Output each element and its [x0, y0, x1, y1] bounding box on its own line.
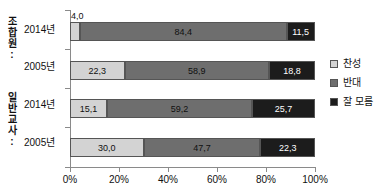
- bar-segment-value: 4,0: [71, 11, 84, 21]
- bar-segment[interactable]: 25,7: [252, 99, 315, 118]
- x-axis-tick: [168, 168, 169, 172]
- legend: 찬성반대잘 모름: [330, 58, 390, 115]
- legend-swatch-icon: [330, 79, 338, 87]
- bar-segment-value: 47,7: [193, 143, 211, 153]
- group-label-char: 사: [2, 125, 22, 136]
- bar-segment[interactable]: 47,7: [144, 138, 261, 157]
- plot-area: 4,084,411,522,358,918,815,159,225,730,04…: [70, 10, 315, 165]
- x-axis-line: [70, 167, 316, 168]
- bar-row: 4,084,411,5: [70, 22, 315, 41]
- legend-swatch-icon: [330, 60, 338, 68]
- group-label-char: 교: [2, 114, 22, 125]
- legend-label: 반대: [343, 77, 361, 88]
- bar-segment-value: 58,9: [188, 66, 206, 76]
- bar-segment-value: 11,5: [292, 27, 309, 37]
- bar-segment[interactable]: 58,9: [125, 61, 269, 80]
- bar-segment-value: 22,3: [89, 66, 107, 76]
- legend-unknown[interactable]: 잘 모름: [330, 96, 390, 107]
- bar-segment[interactable]: 22,3: [260, 138, 315, 157]
- bar-segment[interactable]: 84,4: [80, 22, 287, 41]
- x-axis-tick: [119, 168, 120, 172]
- legend-label: 찬성: [343, 58, 361, 69]
- bar-row: 15,159,225,7: [70, 99, 315, 118]
- bar-segment-value: 15,1: [80, 104, 98, 114]
- group-label-char: 합: [2, 27, 22, 38]
- group-label-teacher: 일반교사:: [2, 92, 22, 147]
- year-label: 2005년: [24, 137, 68, 149]
- bar-segment-value: 18,8: [283, 66, 301, 76]
- bar-segment-value: 25,7: [275, 104, 293, 114]
- group-label-union: 조합원:: [2, 16, 22, 60]
- bar-segment-value: 30,0: [98, 143, 116, 153]
- bar-segment-value: 22,3: [279, 143, 297, 153]
- group-label-char: 반: [2, 103, 22, 114]
- bar-segment[interactable]: 30,0: [70, 138, 144, 157]
- bar-segment[interactable]: 59,2: [107, 99, 252, 118]
- x-axis-tick-label: 0%: [52, 174, 88, 186]
- year-label: 2014년: [24, 99, 68, 111]
- x-axis-tick: [70, 168, 71, 172]
- group-label-char: 조: [2, 16, 22, 27]
- bar-row: 22,358,918,8: [70, 61, 315, 80]
- x-axis-tick: [217, 168, 218, 172]
- bar-segment[interactable]: 4,0: [70, 22, 80, 41]
- x-axis-tick-label: 20%: [101, 174, 137, 186]
- bar-row: 30,047,722,3: [70, 138, 315, 157]
- x-axis-tick-label: 40%: [150, 174, 186, 186]
- bar-segment-value: 59,2: [171, 104, 189, 114]
- year-label: 2005년: [24, 61, 68, 73]
- bar-segment[interactable]: 15,1: [70, 99, 107, 118]
- legend-oppose[interactable]: 반대: [330, 77, 390, 88]
- group-label-char: 원: [2, 38, 22, 49]
- bar-segment-value: 84,4: [174, 27, 192, 37]
- legend-agree[interactable]: 찬성: [330, 58, 390, 69]
- x-axis-tick-label: 80%: [248, 174, 284, 186]
- x-axis-tick-label: 60%: [199, 174, 235, 186]
- legend-swatch-icon: [330, 98, 338, 106]
- year-label: 2014년: [24, 24, 68, 36]
- x-axis-tick: [315, 168, 316, 172]
- group-label-char: :: [2, 136, 22, 147]
- x-axis-tick: [266, 168, 267, 172]
- bar-segment[interactable]: 18,8: [269, 61, 315, 80]
- bar-segment[interactable]: 11,5: [287, 22, 315, 41]
- x-axis-tick-label: 100%: [297, 174, 333, 186]
- stacked-bar-chart: 조합원: 일반교사: 2014년 2005년 2014년 2005년 4,084…: [0, 0, 391, 196]
- legend-label: 잘 모름: [343, 96, 373, 107]
- group-label-char: 일: [2, 92, 22, 103]
- bar-segment[interactable]: 22,3: [70, 61, 125, 80]
- group-label-char: :: [2, 49, 22, 60]
